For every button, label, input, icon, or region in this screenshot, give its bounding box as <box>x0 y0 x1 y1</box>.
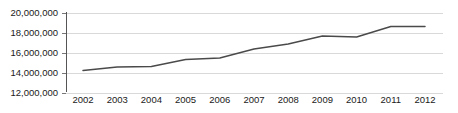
x-axis-tick-label: 2011 <box>381 94 401 105</box>
x-axis-tick-label: 2004 <box>141 94 162 105</box>
tick-marks-group <box>62 14 66 94</box>
y-axis-tick-label: 14,000,000 <box>10 67 58 78</box>
x-axis-tick-label: 2003 <box>107 94 128 105</box>
y-axis-tick-label: 16,000,000 <box>10 47 58 58</box>
x-axis-tick-label: 2002 <box>72 94 93 105</box>
x-axis-tick-label: 2008 <box>278 94 299 105</box>
x-axis-tick-label: 2010 <box>346 94 367 105</box>
y-axis-tick-label: 20,000,000 <box>10 7 58 18</box>
y-axis-tick-labels: 12,000,00014,000,00016,000,00018,000,000… <box>10 7 58 98</box>
x-axis-tick-label: 2012 <box>414 94 435 105</box>
x-axis-tick-label: 2005 <box>175 94 196 105</box>
x-axis-tick-label: 2009 <box>312 94 333 105</box>
line-chart: 12,000,00014,000,00016,000,00018,000,000… <box>0 0 458 113</box>
x-axis-tick-label: 2006 <box>209 94 230 105</box>
y-axis-tick-label: 12,000,000 <box>10 87 58 98</box>
x-axis-tick-label: 2007 <box>243 94 264 105</box>
y-axis-tick-label: 18,000,000 <box>10 27 58 38</box>
chart-canvas: 12,000,00014,000,00016,000,00018,000,000… <box>0 0 458 113</box>
gridlines-group <box>66 14 443 94</box>
x-axis-tick-labels: 2002200320042005200620072008200920102011… <box>72 94 435 105</box>
